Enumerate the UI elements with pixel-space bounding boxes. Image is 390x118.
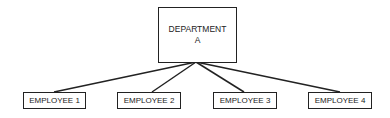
employee-label: EMPLOYEE 4 [315,96,366,105]
employee-node-4: EMPLOYEE 4 [308,92,372,109]
department-node: DEPARTMENT A [158,7,237,63]
employee-node-1: EMPLOYEE 1 [23,92,86,109]
connector-employee-4 [196,62,340,92]
employee-node-2: EMPLOYEE 2 [117,92,181,109]
employee-label: EMPLOYEE 2 [124,96,175,105]
employee-label: EMPLOYEE 3 [220,96,271,105]
employee-label: EMPLOYEE 1 [29,96,80,105]
department-label: DEPARTMENT [169,24,227,35]
department-sublabel: A [169,35,227,46]
employee-node-3: EMPLOYEE 3 [213,92,277,109]
